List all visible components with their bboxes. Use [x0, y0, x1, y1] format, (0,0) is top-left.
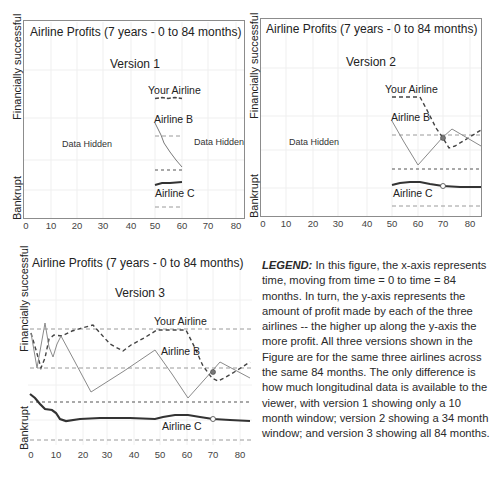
x-axis-ticks: 0 10 20 30 40 50 60 70 80	[23, 220, 241, 231]
airline-c-marker	[441, 184, 446, 189]
series-airline-b	[31, 323, 250, 398]
svg-text:80: 80	[235, 449, 246, 460]
y-label-bottom: Bankrupt	[18, 406, 30, 450]
svg-text:30: 30	[333, 218, 344, 229]
y-label-top: Financially successful	[18, 246, 30, 352]
legend-caption: LEGEND: In this figure, the x-axis repre…	[262, 258, 494, 442]
series-airline-c	[155, 182, 182, 185]
svg-text:80: 80	[231, 220, 242, 231]
version-label: Version 3	[115, 286, 165, 300]
y-label-bottom: Bankrupt	[248, 174, 260, 218]
label-your-airline: Your Airline	[154, 315, 207, 327]
crossing-marker	[441, 136, 446, 141]
label-your-airline: Your Airline	[385, 83, 438, 95]
svg-text:40: 40	[126, 220, 137, 231]
svg-text:30: 30	[98, 220, 109, 231]
label-airline-c: Airline C	[155, 187, 195, 199]
chart-version-3: Airline Profits (7 years - 0 to 84 month…	[18, 246, 252, 460]
label-airline-b: Airline B	[391, 111, 430, 123]
svg-text:50: 50	[150, 220, 161, 231]
version-label: Version 2	[346, 55, 396, 69]
series-airline-c	[30, 394, 250, 421]
svg-text:10: 10	[281, 218, 292, 229]
data-hidden-left: Data Hidden	[62, 139, 112, 149]
label-airline-b: Airline B	[161, 345, 200, 357]
svg-text:0: 0	[23, 220, 28, 231]
y-label-top: Financially successful	[248, 13, 260, 119]
svg-text:50: 50	[155, 449, 166, 460]
svg-text:20: 20	[308, 218, 319, 229]
svg-text:60: 60	[182, 449, 193, 460]
version-label: Version 1	[110, 57, 160, 71]
x-axis-ticks: 0 10 20 30 40 50 60 70 80	[260, 218, 475, 229]
svg-text:30: 30	[102, 449, 113, 460]
chart-title: Airline Profits (7 years - 0 to 84 month…	[32, 256, 243, 270]
svg-text:60: 60	[177, 220, 188, 231]
svg-text:70: 70	[208, 449, 219, 460]
label-airline-b: Airline B	[154, 113, 193, 125]
svg-text:40: 40	[362, 218, 373, 229]
chart-title: Airline Profits (7 years - 0 to 84 month…	[266, 22, 477, 36]
svg-text:40: 40	[129, 449, 140, 460]
svg-text:60: 60	[413, 218, 424, 229]
svg-text:0: 0	[28, 449, 33, 460]
series-your-airline	[155, 98, 182, 99]
svg-text:70: 70	[203, 220, 214, 231]
gridlines	[24, 22, 244, 218]
svg-text:10: 10	[46, 220, 57, 231]
svg-text:0: 0	[260, 218, 265, 229]
chart-version-1: Airline Profits (7 years - 0 to 84 month…	[11, 14, 245, 231]
x-axis-ticks: 0 10 20 30 40 50 60 70 80	[28, 449, 245, 460]
label-airline-c: Airline C	[162, 420, 202, 432]
y-label-top: Financially successful	[11, 14, 23, 120]
svg-text:20: 20	[72, 220, 83, 231]
chart-version-2: Airline Profits (7 years - 0 to 84 month…	[248, 13, 482, 229]
label-your-airline: Your Airline	[148, 84, 201, 96]
series-your-airline	[31, 325, 250, 381]
crossing-marker	[211, 370, 216, 375]
svg-text:50: 50	[387, 218, 398, 229]
label-airline-c: Airline C	[393, 187, 433, 199]
series-airline-b	[392, 121, 481, 165]
y-label-bottom: Bankrupt	[11, 176, 23, 220]
airline-c-marker	[211, 417, 216, 422]
chart-frame	[24, 21, 245, 219]
chart-title: Airline Profits (7 years - 0 to 84 month…	[30, 25, 241, 39]
legend-heading: LEGEND:	[262, 259, 312, 271]
svg-text:10: 10	[51, 449, 62, 460]
legend-text: In this figure, the x-axis represents ti…	[262, 259, 490, 439]
svg-text:20: 20	[78, 449, 89, 460]
svg-text:80: 80	[465, 218, 476, 229]
svg-text:70: 70	[438, 218, 449, 229]
data-hidden-left: Data Hidden	[289, 137, 339, 147]
data-hidden-right: Data Hidden	[194, 137, 244, 147]
